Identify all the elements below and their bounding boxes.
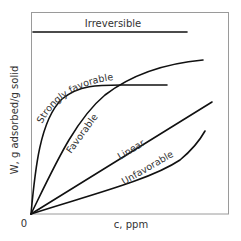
curve-unfavorable <box>31 131 205 214</box>
x-axis-label: c, ppm <box>114 219 148 230</box>
origin-label: 0 <box>21 218 27 229</box>
isotherm-diagram: Irreversible Strongly favorable Favorabl… <box>0 0 241 241</box>
curve-favorable <box>31 60 203 214</box>
label-linear: Linear <box>115 137 146 162</box>
label-favorable: Favorable <box>64 111 100 155</box>
y-axis-label: W, g adsorbed/g solid <box>9 66 20 175</box>
label-irreversible: Irreversible <box>85 18 141 29</box>
